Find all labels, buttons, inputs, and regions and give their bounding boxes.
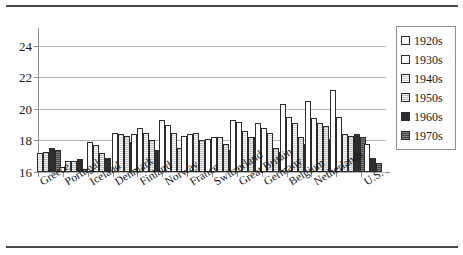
- legend-swatch-icon: [401, 93, 410, 102]
- y-tick-label: 16: [19, 166, 32, 179]
- y-tick-label: 22: [19, 71, 32, 84]
- y-tick-label: 18: [19, 134, 32, 147]
- legend-swatch-icon: [401, 112, 410, 121]
- chart-legend: 1920s1930s1940s1950s1960s1970s: [396, 26, 456, 150]
- y-tick-mark-24: [34, 46, 39, 47]
- legend-item-1940s[interactable]: 1940s: [401, 69, 452, 88]
- legend-swatch-icon: [401, 55, 410, 64]
- bar-chart-figure: 1618202224 GreecePortugalIcelandDenmarkF…: [0, 0, 463, 255]
- legend-item-label: 1960s: [414, 111, 443, 123]
- y-tick-mark-20: [34, 109, 39, 110]
- legend-item-1960s[interactable]: 1960s: [401, 107, 452, 126]
- legend-item-1950s[interactable]: 1950s: [401, 88, 452, 107]
- legend-item-label: 1970s: [414, 130, 443, 142]
- legend-item-label: 1940s: [414, 73, 443, 85]
- legend-item-label: 1920s: [414, 35, 443, 47]
- y-tick-mark-18: [34, 140, 39, 141]
- legend-item-1970s[interactable]: 1970s: [401, 126, 452, 145]
- legend-swatch-icon: [401, 74, 410, 83]
- legend-swatch-icon: [401, 36, 410, 45]
- top-divider: [6, 5, 458, 7]
- plot-area: 1618202224: [38, 30, 386, 172]
- y-tick-mark-22: [34, 77, 39, 78]
- legend-swatch-icon: [401, 131, 410, 140]
- legend-item-label: 1950s: [414, 92, 443, 104]
- y-tick-label: 20: [19, 102, 32, 115]
- legend-item-label: 1930s: [414, 54, 443, 66]
- gridline-24: [38, 46, 386, 47]
- gridline-22: [38, 77, 386, 78]
- y-tick-label: 24: [19, 39, 32, 52]
- legend-item-1930s[interactable]: 1930s: [401, 50, 452, 69]
- legend-item-1920s[interactable]: 1920s: [401, 31, 452, 50]
- bottom-divider: [6, 246, 458, 248]
